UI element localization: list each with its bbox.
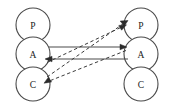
diagram-svg: P A C P A C bbox=[0, 0, 174, 112]
node-left-c-label: C bbox=[30, 80, 36, 90]
node-left-p-label: P bbox=[30, 21, 35, 31]
edge-left-a-to-right-p[interactable] bbox=[47, 25, 127, 63]
diagram-canvas: P A C P A C bbox=[0, 0, 174, 112]
node-left-a[interactable]: A bbox=[16, 37, 50, 71]
edge-left-c-to-right-p-line[interactable] bbox=[47, 22, 127, 78]
right-column-group: P A C bbox=[124, 8, 158, 101]
edge-left-c-to-right-p[interactable] bbox=[47, 21, 128, 78]
edge-right-a-to-left-c-line[interactable] bbox=[46, 51, 127, 83]
node-left-c[interactable]: C bbox=[16, 67, 50, 101]
node-left-a-label: A bbox=[30, 50, 37, 60]
edge-right-a-to-left-a[interactable] bbox=[45, 56, 128, 62]
node-right-c-label: C bbox=[138, 80, 144, 90]
node-right-p-label: P bbox=[138, 21, 143, 31]
edge-right-a-to-left-c[interactable] bbox=[44, 51, 126, 84]
node-right-c[interactable]: C bbox=[124, 67, 158, 101]
edges-group bbox=[44, 21, 128, 84]
left-column-group: P A C bbox=[16, 8, 50, 101]
node-right-a-label: A bbox=[138, 50, 145, 60]
edge-left-a-to-right-p-line[interactable] bbox=[47, 26, 125, 63]
node-right-a[interactable]: A bbox=[124, 37, 158, 71]
